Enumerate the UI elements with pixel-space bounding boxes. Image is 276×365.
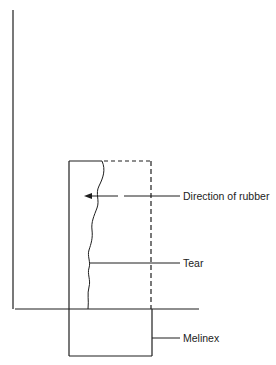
diagram-canvas: Direction of rubber Tear Melinex (0, 0, 276, 365)
arrow-left-icon (84, 193, 92, 199)
tear-line (88, 161, 104, 309)
direction-label: Direction of rubber (183, 190, 270, 202)
melinex-label: Melinex (183, 332, 220, 344)
tear-label: Tear (183, 257, 204, 269)
